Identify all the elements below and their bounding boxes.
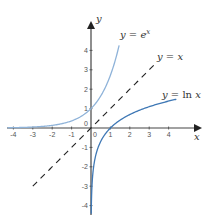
exp-curve-label: y = ex <box>119 28 150 40</box>
x-tick-label: -2 <box>49 131 55 138</box>
y-tick-label: -4 <box>82 202 88 209</box>
identity-curve-label: y = x <box>156 51 183 62</box>
log-curve-label: y = ln x <box>161 89 201 100</box>
exp-label-main: y = e <box>119 29 146 40</box>
exp-label-sup: x <box>146 28 150 36</box>
x-tick-label: 4 <box>167 131 171 138</box>
y-tick-label: 4 <box>84 47 88 54</box>
x-tick-label: 1 <box>108 131 112 138</box>
identity-curve <box>33 63 156 186</box>
y-tick-label: -2 <box>82 163 88 170</box>
x-axis-label: x <box>194 131 200 142</box>
log-curve <box>91 99 176 214</box>
y-tick-label: -3 <box>82 183 88 190</box>
origin-label-y: 0 <box>84 120 88 127</box>
y-tick-label: 3 <box>84 66 88 73</box>
y-axis-label: y <box>95 13 102 24</box>
y-tick-label: -1 <box>82 144 88 151</box>
log-label-var: x <box>192 89 201 100</box>
x-tick-label: 3 <box>147 131 151 138</box>
y-tick-label: 2 <box>84 86 88 93</box>
function-plot: -4-3-2-11234 -4-3-2-11234 x y 0 0 y = ex… <box>0 0 212 223</box>
x-tick-label: -3 <box>30 131 36 138</box>
x-tick-label: -4 <box>10 131 16 138</box>
exp-curve <box>8 45 120 127</box>
origin-label-x: 0 <box>93 131 97 138</box>
x-tick-label: 2 <box>128 131 132 138</box>
x-tick-label: -1 <box>68 131 74 138</box>
log-label-main: y = <box>161 89 182 100</box>
series-layer <box>8 45 177 214</box>
